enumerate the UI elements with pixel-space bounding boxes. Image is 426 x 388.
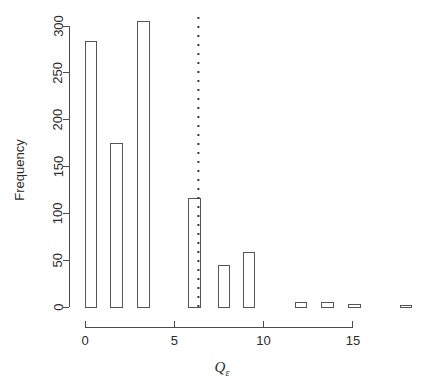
histogram-bar [322, 302, 334, 307]
histogram-bar [138, 21, 150, 307]
bars-group [85, 21, 412, 307]
histogram-bar [218, 266, 230, 307]
x-axis-tick-label: 5 [171, 333, 178, 348]
histogram-bar [400, 305, 412, 307]
x-axis-tick-label: 15 [346, 333, 360, 348]
histogram-bar [111, 143, 123, 307]
histogram-figure: 051015 050100150200250300 FrequencyQε [0, 0, 426, 388]
y-axis-tick-label: 250 [51, 62, 66, 84]
y-axis-tick-label: 150 [51, 156, 66, 178]
histogram-plot: 051015 050100150200250300 FrequencyQε [0, 0, 426, 388]
y-axis-title: Frequency [12, 139, 27, 201]
y-axis-tick-label: 300 [51, 15, 66, 37]
axis-titles: FrequencyQε [12, 139, 229, 378]
x-axis-tick-label: 10 [256, 333, 270, 348]
histogram-bar [296, 302, 307, 307]
y-axis-tick-label: 0 [51, 303, 66, 310]
y-axis-tick-label: 50 [51, 253, 66, 267]
x-axis-tick-label: 0 [81, 333, 88, 348]
histogram-bar [85, 42, 97, 307]
histogram-bar [348, 304, 360, 307]
y-axis-tick-label: 100 [51, 202, 66, 224]
x-axis: 051015 [81, 321, 360, 348]
y-axis-tick-label: 200 [51, 109, 66, 131]
y-axis: 050100150200250300 [51, 15, 70, 310]
x-axis-title: Qε [215, 359, 230, 378]
histogram-bar [243, 253, 255, 307]
